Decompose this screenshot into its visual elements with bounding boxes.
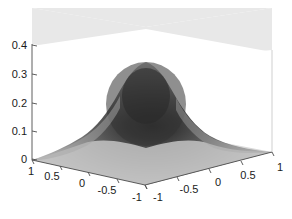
z-tick-label-0: 0 [21, 153, 27, 165]
x-tick-label-0: 0 [215, 176, 221, 188]
y-tick-label-0.5: 0.5 [44, 170, 59, 182]
surface-plot-3d: 0.4 0.3 0.2 0.1 0 1 0.5 0 -0.5 -1 [0, 0, 292, 219]
x-tick-label-0.5: 0.5 [240, 169, 255, 181]
x-tick-1 [272, 152, 274, 156]
y-tick-label-0: 0 [79, 177, 85, 189]
x-tick-0 [209, 169, 211, 173]
x-tick-label-1: 1 [277, 161, 283, 173]
x-tick--0.5 [177, 177, 179, 181]
z-tick-0.4 [32, 45, 37, 46]
z-tick-label-0.3: 0.3 [12, 68, 27, 80]
x-tick-0.5 [241, 161, 243, 165]
y-tick-label--1: -1 [132, 191, 142, 203]
y-tick-label--0.5: -0.5 [98, 184, 117, 196]
x-tick-label--1: -1 [153, 191, 163, 203]
figure-canvas: 0.4 0.3 0.2 0.1 0 1 0.5 0 -0.5 -1 [0, 0, 292, 219]
z-tick-label-0.4: 0.4 [12, 39, 27, 51]
z-tick-label-0.2: 0.2 [12, 97, 27, 109]
x-tick-label--0.5: -0.5 [180, 183, 199, 195]
z-tick-label-0.1: 0.1 [12, 125, 27, 137]
surface-peak-core-inner [122, 68, 170, 124]
x-tick--1 [145, 185, 147, 189]
z-axis-tick-labels: 0.4 0.3 0.2 0.1 0 [12, 39, 27, 165]
y-tick-label-1: 1 [28, 165, 34, 177]
